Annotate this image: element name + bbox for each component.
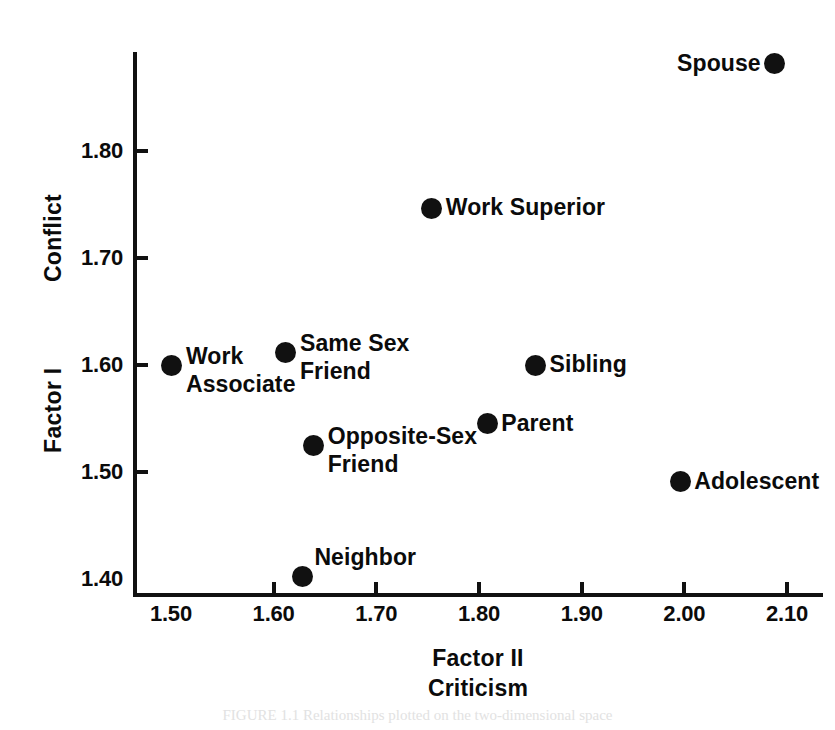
x-tick-label: 2.10 xyxy=(742,602,832,626)
x-tick-label: 1.60 xyxy=(229,602,319,626)
y-tick-mark xyxy=(137,470,148,474)
data-point-label-line: Work Superior xyxy=(446,193,605,221)
x-tick-mark xyxy=(477,582,481,593)
y-tick-mark xyxy=(137,256,148,260)
x-tick-mark xyxy=(580,582,584,593)
y-tick-mark xyxy=(137,149,148,153)
data-point-label: WorkAssociate xyxy=(186,342,296,398)
y-tick-label: 1.80 xyxy=(55,140,123,162)
figure-caption: FIGURE 1.1 Relationships plotted on the … xyxy=(0,707,835,724)
data-point-label: Same SexFriend xyxy=(300,329,410,385)
data-point-label-line: Sibling xyxy=(549,350,626,378)
x-tick-label: 1.50 xyxy=(126,602,216,626)
y-axis-line xyxy=(133,52,137,597)
y-axis-title-upper: Conflict xyxy=(40,194,67,282)
data-point[interactable] xyxy=(764,53,785,74)
data-point[interactable] xyxy=(292,566,313,587)
data-point-label: Spouse xyxy=(677,49,761,77)
data-point[interactable] xyxy=(525,355,546,376)
data-point-label: Work Superior xyxy=(446,193,605,221)
data-point-label: Parent xyxy=(501,409,573,437)
data-point-label-line: Work xyxy=(186,342,296,370)
x-tick-mark xyxy=(272,582,276,593)
x-tick-label: 1.80 xyxy=(434,602,524,626)
data-point[interactable] xyxy=(161,355,182,376)
x-axis-line xyxy=(133,593,823,597)
x-tick-mark xyxy=(785,582,789,593)
data-point-label-line: Associate xyxy=(186,370,296,398)
data-point-label-line: Parent xyxy=(501,409,573,437)
x-tick-label: 2.00 xyxy=(639,602,729,626)
x-axis-title: Factor II Criticism xyxy=(133,643,823,703)
data-point-label-line: Adolescent xyxy=(694,467,819,495)
data-point-label: Opposite-SexFriend xyxy=(328,422,477,478)
x-tick-mark xyxy=(682,582,686,593)
data-point-label-line: Friend xyxy=(328,450,477,478)
data-point-label: Adolescent xyxy=(694,467,819,495)
data-point[interactable] xyxy=(421,198,442,219)
data-point[interactable] xyxy=(670,471,691,492)
x-axis-title-line2: Criticism xyxy=(133,673,823,703)
data-point-label-line: Opposite-Sex xyxy=(328,422,477,450)
data-point-label-line: Same Sex xyxy=(300,329,410,357)
x-axis-title-line1: Factor II xyxy=(133,643,823,673)
data-point-label-line: Neighbor xyxy=(314,543,416,571)
data-point[interactable] xyxy=(303,435,324,456)
y-axis-title-lower: Factor I xyxy=(40,367,67,452)
x-tick-label: 1.90 xyxy=(537,602,627,626)
y-axis-title: Factor I Conflict xyxy=(40,164,67,484)
data-point-label: Neighbor xyxy=(314,543,416,571)
x-tick-mark xyxy=(374,582,378,593)
data-point[interactable] xyxy=(477,413,498,434)
data-point-label: Sibling xyxy=(549,350,626,378)
y-tick-mark xyxy=(137,363,148,367)
data-point-label-line: Spouse xyxy=(677,49,761,77)
data-point-label-line: Friend xyxy=(300,357,410,385)
x-tick-label: 1.70 xyxy=(331,602,421,626)
y-tick-label: 1.40 xyxy=(55,568,123,590)
scatter-plot-figure: 1.401.501.601.701.80 1.501.601.701.801.9… xyxy=(0,0,835,730)
